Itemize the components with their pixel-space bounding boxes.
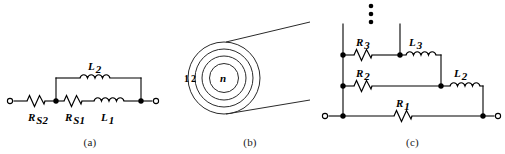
label-rs2: RS2 — [27, 111, 48, 126]
circuit-panel-a: RS2 RS1 L1 L2 (a) — [0, 0, 180, 154]
label-l3: L3 — [408, 36, 423, 51]
circuit-c-svg: R3 L3 R2 L2 R1 — [320, 0, 505, 154]
vertical-ellipsis-icon — [369, 4, 374, 25]
inductor-l3-symbol — [406, 52, 436, 55]
inductor-l2-symbol — [450, 83, 480, 86]
node-dot-a-right — [138, 98, 143, 103]
label-turn-1: 1 — [184, 73, 189, 84]
resistor-rs2-symbol — [27, 96, 45, 107]
terminal-c-right[interactable] — [495, 113, 500, 118]
node-dot-a-left — [53, 98, 58, 103]
node-dot-c-mid-top — [397, 52, 402, 57]
cylinder-body-lines — [226, 22, 310, 114]
coil-cross-section-panel-b: 1 2 n (b) — [170, 0, 330, 154]
label-rs1: RS1 — [64, 111, 85, 126]
coil-b-svg: 1 2 n — [170, 0, 330, 154]
terminal-a-left[interactable] — [7, 98, 12, 103]
circuit-panel-c: R3 L3 R2 L2 R1 (c) — [320, 0, 505, 154]
label-l2-c: L2 — [453, 67, 468, 82]
caption-b: (b) — [170, 136, 330, 148]
label-l2: L2 — [87, 60, 102, 75]
resistor-r3-symbol — [354, 50, 372, 61]
node-dot-c-right-bottom — [480, 113, 485, 118]
caption-c: (c) — [320, 136, 505, 148]
label-r3: R3 — [355, 36, 370, 51]
figure-root: RS2 RS1 L1 L2 (a) 1 2 n ( — [0, 0, 505, 154]
panel-a-wires — [14, 78, 152, 101]
resistor-r2-symbol — [354, 81, 372, 92]
resistor-r1-symbol — [394, 111, 412, 122]
label-r1: R1 — [395, 97, 410, 112]
node-dot-c-left-top — [340, 52, 345, 57]
circuit-a-svg: RS2 RS1 L1 L2 — [0, 0, 180, 154]
label-turn-2: 2 — [191, 73, 196, 84]
terminal-a-right[interactable] — [153, 98, 158, 103]
inductor-l1-symbol — [94, 98, 124, 101]
node-dot-c-mid-mid — [438, 83, 443, 88]
label-turn-n: n — [220, 72, 226, 84]
node-dot-c-left-bottom — [340, 113, 345, 118]
label-l1: L1 — [100, 111, 114, 126]
label-r2: R2 — [355, 67, 370, 82]
caption-a: (a) — [0, 136, 180, 148]
inductor-l2-symbol — [80, 75, 110, 78]
terminal-c-left[interactable] — [322, 113, 327, 118]
resistor-rs1-symbol — [64, 96, 82, 107]
node-dot-c-left-mid — [340, 83, 345, 88]
